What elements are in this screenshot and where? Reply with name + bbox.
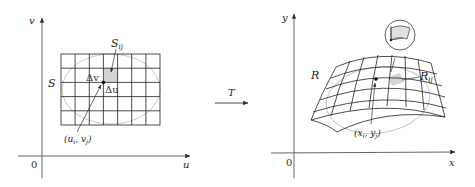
transform-label: T xyxy=(228,87,236,98)
delta-u-label: Δu xyxy=(105,84,119,95)
transform-arrow: T xyxy=(215,87,248,103)
origin-label: 0 xyxy=(31,159,37,170)
v-axis-label: v xyxy=(29,15,35,26)
u-axis-label: u xyxy=(183,159,189,170)
left-plot: v u 0 S Sij Δv Δu (ui, vj) xyxy=(18,15,190,178)
point-xy-label: (xi, yj) xyxy=(354,128,381,140)
change-of-variables-diagram: v u 0 S Sij Δv Δu (ui, vj) xyxy=(0,0,475,187)
region-r-label: R xyxy=(310,69,319,82)
sij-label: Sij xyxy=(111,37,124,51)
region-s-label: S xyxy=(48,77,56,90)
origin-label-right: 0 xyxy=(286,157,292,168)
inset-parallelogram xyxy=(391,26,410,40)
x-axis xyxy=(271,152,455,153)
y-axis-label: y xyxy=(281,12,288,23)
delta-v-label: Δv xyxy=(86,72,99,83)
right-plot: y x 0 xyxy=(271,12,455,178)
point-uv-label: (ui, vj) xyxy=(64,134,92,146)
sample-point-xy xyxy=(374,77,378,81)
x-axis-label: x xyxy=(449,157,455,168)
magnified-inset xyxy=(385,20,415,72)
subrectangle-sij xyxy=(104,68,118,82)
subregion-rij xyxy=(388,73,404,86)
